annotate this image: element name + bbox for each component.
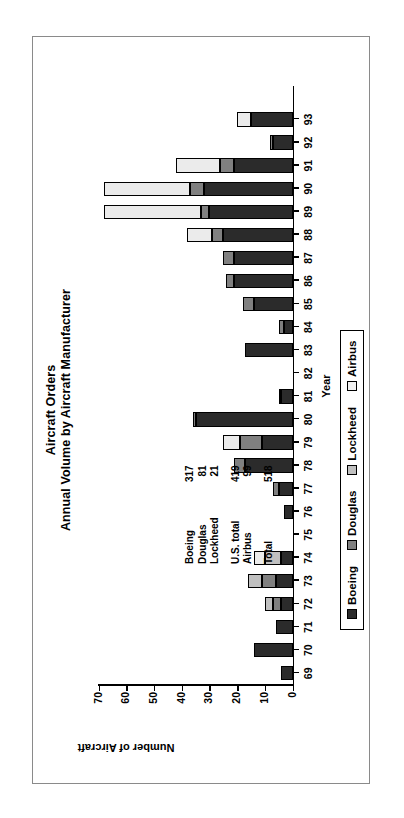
bar-segment-douglas	[220, 158, 234, 172]
bar-segment-douglas	[273, 597, 281, 611]
annotation-row-value: 21	[209, 465, 222, 491]
annotation-table-spacer	[222, 465, 230, 564]
x-axis-tick-label: 92	[302, 132, 314, 154]
bar-segment-airbus	[104, 205, 201, 219]
bar-stack	[223, 435, 292, 449]
bar-stack	[254, 643, 293, 657]
x-axis-line	[293, 86, 295, 686]
bar-segment-airbus	[237, 112, 251, 126]
legend-item-lockheed[interactable]: Lockheed	[346, 407, 358, 475]
bar-segment-airbus	[176, 158, 220, 172]
bar-segment-boeing	[234, 274, 292, 288]
x-axis-tick	[294, 464, 299, 466]
bar-segment-boeing	[273, 135, 292, 149]
x-axis-tick-label: 81	[302, 385, 314, 407]
x-axis-title: Year	[320, 86, 332, 686]
bar-stack	[276, 620, 293, 634]
y-axis-tick	[293, 686, 295, 691]
bar-stack	[187, 228, 292, 242]
x-axis-tick	[294, 556, 299, 558]
bar-segment-boeing	[234, 158, 292, 172]
legend-item-douglas[interactable]: Douglas	[346, 491, 358, 550]
bar-segment-boeing	[254, 297, 293, 311]
plot-area: 010203040506070 697071727374757677787980…	[98, 86, 294, 686]
chart-title: Aircraft Orders	[44, 38, 59, 782]
y-axis-tick	[265, 686, 267, 691]
x-axis-tick-label: 82	[302, 362, 314, 384]
bar-stack	[279, 389, 293, 403]
annotation-row-label: Boeing	[184, 491, 197, 564]
annotation-row-label: Airbus	[242, 491, 255, 564]
x-axis-tick	[294, 580, 299, 582]
annotation-table-row: Lockheed21	[209, 465, 222, 564]
legend-item-label: Airbus	[346, 341, 358, 377]
bar-stack	[104, 182, 292, 196]
x-axis-tick-label: 71	[302, 616, 314, 638]
annotation-row-value: 99	[242, 465, 255, 491]
x-axis-tick	[294, 141, 299, 143]
chart-canvas: Aircraft Orders Annual Volume by Aircraf…	[34, 38, 368, 782]
annotation-row-label: U.S. total	[230, 491, 243, 564]
rotated-chart-container: Aircraft Orders Annual Volume by Aircraf…	[34, 38, 368, 782]
annotation-table-body: Boeing317Douglas81Lockheed21U.S. total41…	[184, 465, 275, 564]
annotation-row-value: 518	[263, 465, 276, 491]
annotation-data-table: Boeing317Douglas81Lockheed21U.S. total41…	[184, 465, 275, 564]
bar-stack	[284, 505, 292, 519]
bar-segment-boeing	[284, 320, 292, 334]
bar-segment-airbus	[187, 228, 212, 242]
chart-legend: BoeingDouglasLockheedAirbus	[340, 330, 364, 630]
legend-item-label: Douglas	[346, 491, 358, 536]
bar-segment-boeing	[262, 435, 292, 449]
x-axis-tick	[294, 418, 299, 420]
x-axis-tick-label: 75	[302, 524, 314, 546]
x-axis-tick	[294, 280, 299, 282]
x-axis-tick	[294, 164, 299, 166]
annotation-table: Boeing317Douglas81Lockheed21U.S. total41…	[184, 465, 275, 564]
x-axis-tick-label: 85	[302, 293, 314, 315]
x-axis-tick	[294, 187, 299, 189]
bar-segment-douglas	[212, 228, 223, 242]
annotation-row-value	[222, 465, 230, 491]
bar-stack	[273, 482, 292, 496]
x-axis-tick-label: 91	[302, 155, 314, 177]
bar-segment-boeing	[209, 205, 292, 219]
bar-segment-airbus	[223, 435, 240, 449]
y-axis-tick-label: 20	[231, 692, 241, 720]
x-axis-tick-label: 78	[302, 455, 314, 477]
annotation-row-value: 81	[197, 465, 210, 491]
y-axis-tick	[126, 686, 128, 691]
bar-segment-boeing	[223, 228, 292, 242]
legend-item-label: Boeing	[346, 566, 358, 605]
y-axis-tick	[99, 686, 101, 691]
annotation-table-row: Airbus99	[242, 465, 255, 564]
x-axis-tick-label: 89	[302, 201, 314, 223]
page-root: Aircraft Orders Annual Volume by Aircraf…	[0, 0, 404, 818]
annotation-table-row: Douglas81	[197, 465, 210, 564]
annotation-row-label	[255, 491, 263, 564]
x-axis-tick-label: 73	[302, 570, 314, 592]
x-axis-tick-label: 84	[302, 316, 314, 338]
bar-segment-douglas	[262, 574, 276, 588]
chart-subtitle: Annual Volume by Aircraft Manufacturer	[59, 38, 74, 782]
x-axis-tick	[294, 210, 299, 212]
y-axis-tick	[237, 686, 239, 691]
bar-segment-douglas	[201, 205, 209, 219]
bar-segment-boeing	[276, 574, 293, 588]
x-axis-tick	[294, 233, 299, 235]
y-axis-tick	[182, 686, 184, 691]
x-axis-tick-label: 80	[302, 408, 314, 430]
annotation-row-value: 317	[184, 465, 197, 491]
legend-item-boeing[interactable]: Boeing	[346, 566, 358, 619]
chart-title-block: Aircraft Orders Annual Volume by Aircraf…	[44, 38, 74, 782]
bar-segment-boeing	[281, 597, 292, 611]
legend-item-airbus[interactable]: Airbus	[346, 341, 358, 391]
bar-segment-boeing	[204, 182, 293, 196]
x-axis-tick-label: 74	[302, 547, 314, 569]
bar-segment-douglas	[243, 297, 254, 311]
x-axis-tick-label: 93	[302, 108, 314, 130]
y-axis-tick-label: 40	[176, 692, 186, 720]
x-axis-tick-label: 87	[302, 247, 314, 269]
bar-stack	[243, 297, 293, 311]
bar-stack	[265, 597, 293, 611]
bar-stack	[104, 205, 292, 219]
